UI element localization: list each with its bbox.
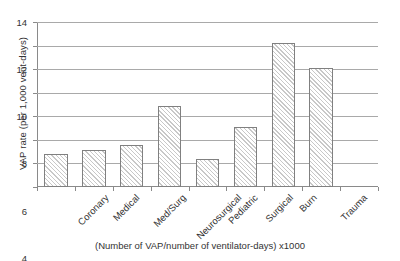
bar [309,68,332,187]
x-tick-mark [340,187,341,191]
bar [272,43,295,187]
category-label-text: Burn [297,192,319,214]
y-tick-mark: 6 [33,116,37,117]
plot-area: 02468101214 [37,22,378,187]
x-tick-mark [302,187,303,191]
y-tick-mark: 10 [33,69,37,70]
x-tick-mark [189,187,190,191]
y-tick-mark: 12 [33,46,37,47]
x-tick-mark [37,187,38,191]
category-label: Burn [297,192,319,214]
bar [158,106,181,187]
category-label: Surgical [263,192,295,224]
bar [196,159,219,187]
chart-figure: VAP rate (per 1,000 vent-days) 024681012… [0,0,400,261]
gridline [37,22,378,23]
y-tick-mark: 8 [33,93,37,94]
category-label: Medical [111,192,142,223]
y-tick-label: 8 [22,158,27,169]
y-axis-line [37,22,38,187]
y-tick-label: 12 [16,64,27,75]
category-label-text: Surgical [263,192,295,224]
y-tick-label: 6 [22,205,27,216]
x-axis-title: (Number of VAP/number of ventilator-days… [0,240,400,251]
bar [44,154,67,187]
y-tick-label: 4 [22,252,27,261]
y-tick-mark: 2 [33,163,37,164]
x-tick-mark [264,187,265,191]
bar [120,145,143,187]
category-label: Med/Surg [151,192,188,229]
category-label-text: Coronary [75,192,110,227]
bar [234,127,257,187]
category-label-text: Medical [111,192,142,223]
x-tick-mark [226,187,227,191]
x-tick-mark [378,187,379,191]
y-tick-label: 10 [16,111,27,122]
x-tick-mark [75,187,76,191]
category-label-text: Med/Surg [151,192,188,229]
y-tick-mark: 4 [33,140,37,141]
category-label-text: Trauma [338,192,369,223]
gridline [37,46,378,47]
category-label: Trauma [338,192,369,223]
y-tick-mark: 14 [33,22,37,23]
category-label: Coronary [75,192,110,227]
x-tick-mark [113,187,114,191]
bar [82,150,105,187]
x-tick-mark [151,187,152,191]
y-tick-label: 14 [16,17,27,28]
